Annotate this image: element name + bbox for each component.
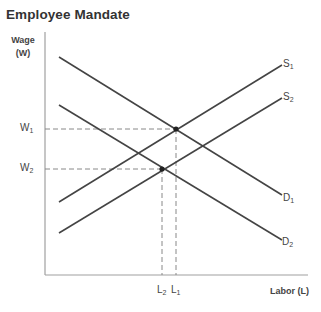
equilibrium-point-2 bbox=[159, 166, 164, 171]
x-axis-label: Labor (L) bbox=[270, 286, 309, 296]
w2-label: W2 bbox=[20, 162, 33, 174]
supply-curve-s2 bbox=[59, 98, 282, 233]
diagram-canvas bbox=[0, 0, 321, 312]
equilibrium-point-1 bbox=[173, 126, 178, 131]
s1-label: S1 bbox=[283, 58, 294, 70]
l2-label: L2 bbox=[157, 284, 166, 296]
s2-label: S2 bbox=[283, 91, 294, 103]
supply-curve-s1 bbox=[59, 65, 282, 202]
d2-label: D2 bbox=[282, 236, 293, 248]
d1-label: D1 bbox=[283, 192, 294, 204]
w1-label: W1 bbox=[20, 122, 33, 134]
l1-label: L1 bbox=[171, 284, 180, 296]
